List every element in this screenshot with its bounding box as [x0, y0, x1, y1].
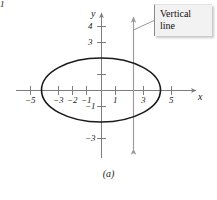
y-tick-label--1: −1 [85, 102, 96, 111]
x-tick-label-3: 3 [141, 96, 146, 105]
vertical-line-callout-box: Vertical line [154, 4, 212, 36]
y-tick-label-1: 1 [0, 0, 5, 9]
y-tick-label-4: 4 [88, 22, 93, 31]
x-tick-label--2: −2 [67, 96, 78, 105]
y-axis [97, 13, 106, 158]
x-axis-label: x [198, 92, 202, 102]
callout-leader-line [134, 21, 155, 31]
x-tick-label-5: 5 [169, 96, 174, 105]
figure-caption: (a) [0, 168, 217, 179]
y-tick-label-3: 3 [88, 38, 93, 47]
callout-label: Vertical line [160, 8, 191, 32]
y-tick-label--3: −3 [85, 134, 96, 143]
x-tick-label--5: −5 [25, 96, 36, 105]
x-axis [16, 86, 196, 95]
x-tick-label-1: 1 [113, 96, 118, 105]
x-tick-label--3: −3 [53, 96, 64, 105]
figure-panel-a: −5 −3 −2 −1 1 3 5 4 3 1 −1 −3 x y Vertic… [0, 0, 217, 200]
y-axis-label: y [91, 9, 95, 19]
